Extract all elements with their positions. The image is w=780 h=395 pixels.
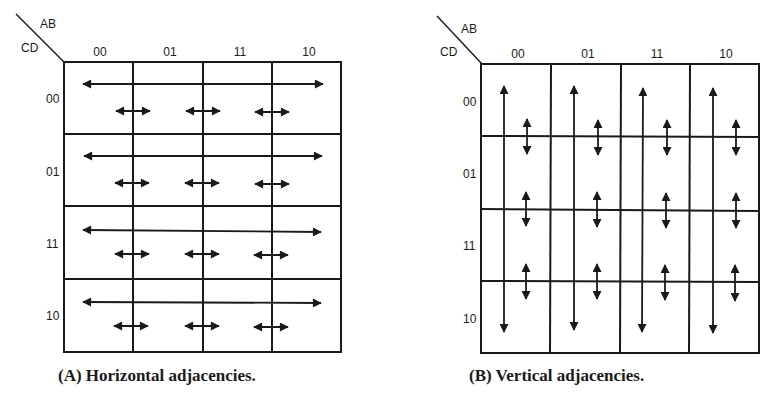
row-label: 00 <box>46 92 60 106</box>
double-arrow-icon <box>642 88 643 332</box>
row-label: 11 <box>46 237 59 251</box>
row-label: 11 <box>463 239 476 253</box>
kmap-grid <box>64 62 341 352</box>
corner-label-ab: AB <box>461 22 477 36</box>
kmap-grid <box>481 64 759 353</box>
col-label: 10 <box>719 47 733 61</box>
karnaugh-adjacency-figure: AB CD 00 01 11 10 00 01 11 10 <box>0 0 780 395</box>
col-label: 00 <box>511 47 525 61</box>
col-label: 00 <box>93 45 107 59</box>
double-arrow-icon <box>83 302 321 303</box>
double-arrow-icon <box>83 230 321 232</box>
row-label: 10 <box>46 309 60 323</box>
col-label: 01 <box>581 47 595 61</box>
corner-label-cd: CD <box>440 45 458 59</box>
kmap-vertical: AB CD 00 01 11 10 00 01 11 10 <box>437 16 759 385</box>
row-label: 00 <box>463 95 477 109</box>
kmap-horizontal: AB CD 00 01 11 10 00 01 11 10 <box>16 14 341 385</box>
row-label: 01 <box>46 165 60 179</box>
corner-label-cd: CD <box>21 41 39 55</box>
corner-label-ab: AB <box>40 17 56 31</box>
col-label: 11 <box>234 45 247 59</box>
adjacent-arrows <box>114 111 289 327</box>
row-label: 10 <box>463 312 477 326</box>
row-label: 01 <box>463 167 477 181</box>
col-label: 01 <box>163 45 177 59</box>
figure-caption: (B) Vertical adjacencies. <box>469 366 644 385</box>
figure-caption: (A) Horizontal adjacencies. <box>58 366 256 385</box>
col-label: 11 <box>651 47 664 61</box>
col-label: 10 <box>302 45 316 59</box>
